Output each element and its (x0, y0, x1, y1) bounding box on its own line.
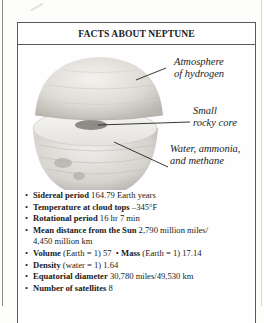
fact-value: 4,450 million km (33, 236, 92, 246)
fact-label: Temperature at cloud tops (33, 202, 130, 212)
fact-satellites: Number of satellites 8 (25, 283, 255, 295)
page-edge-left (2, 0, 3, 306)
fact-mean-distance: Mean distance from the Sun 2,790 million… (25, 225, 255, 237)
fact-value: (Earth = 1) 17.14 (142, 248, 201, 258)
label-atmosphere-line1: Atmosphere (174, 56, 224, 68)
fact-value: 30,780 miles/49,530 km (110, 271, 194, 281)
fact-label: Rotational period (33, 213, 98, 223)
fact-box: FACTS ABOUT NEPTUNE (17, 22, 256, 323)
fact-value: 2,790 million miles/ (139, 225, 208, 235)
fact-value: (water = 1) 1.64 (63, 260, 118, 270)
label-atmosphere-line2: of hydrogen (174, 68, 224, 80)
label-core-line2: rocky core (193, 117, 237, 129)
fact-mean-distance-continued: 4,450 million km (25, 236, 255, 248)
label-core: Small rocky core (193, 105, 237, 129)
neptune-diagram: Atmosphere of hydrogen Small rocky core … (18, 45, 255, 190)
fact-label: Number of satellites (33, 283, 106, 293)
smudge-mark (30, 3, 43, 12)
fact-label: Equatorial diameter (33, 271, 108, 281)
label-mantle-line1: Water, ammonia, (170, 143, 241, 155)
fact-box-title: FACTS ABOUT NEPTUNE (18, 23, 255, 45)
fact-density: Density (water = 1) 1.64 (25, 260, 255, 272)
fact-sidereal-period: Sidereal period 164.79 Earth years (25, 190, 255, 202)
fact-label: Mean distance from the Sun (33, 225, 136, 235)
fact-label: Mass (121, 248, 140, 258)
fact-value: 16 hr 7 min (100, 213, 140, 223)
fact-rotational-period: Rotational period 16 hr 7 min (25, 213, 255, 225)
fact-label: Density (33, 260, 61, 270)
label-mantle: Water, ammonia, and methane (170, 143, 241, 167)
label-core-line1: Small (193, 105, 237, 117)
fact-temperature: Temperature at cloud tops –345°F (25, 202, 255, 214)
page-edge-right (261, 0, 262, 306)
facts-list: Sidereal period 164.79 Earth years Tempe… (18, 190, 255, 294)
label-atmosphere: Atmosphere of hydrogen (174, 56, 224, 80)
fact-value: 8 (109, 283, 113, 293)
fact-equatorial-diameter: Equatorial diameter 30,780 miles/49,530 … (25, 271, 255, 283)
fact-volume-mass: Volume (Earth = 1) 57 • Mass (Earth = 1)… (25, 248, 255, 260)
fact-label: Volume (33, 248, 61, 258)
label-mantle-line2: and methane (170, 155, 241, 167)
fact-value: 164.79 Earth years (91, 190, 156, 200)
fact-value: (Earth = 1) 57 (63, 248, 112, 258)
fact-label: Sidereal period (33, 190, 89, 200)
fact-value: –345°F (132, 202, 157, 212)
